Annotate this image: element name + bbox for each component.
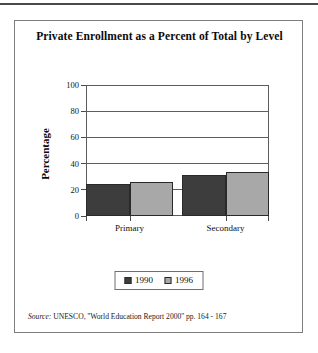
- y-tick-60: [81, 137, 86, 138]
- page-top-rule: [0, 3, 318, 5]
- x-tick-edge-right: [268, 216, 269, 221]
- bar-primary-1996: [130, 182, 174, 216]
- y-axis-title-label: Percentage: [39, 128, 51, 180]
- y-tick-label-80: 80: [57, 106, 79, 116]
- y-tick-label-20: 20: [57, 185, 79, 195]
- bar-primary-1990: [86, 184, 130, 216]
- x-tick-label-secondary: Secondary: [207, 223, 245, 233]
- gridline-40: [86, 163, 269, 164]
- y-tick-label-40: 40: [57, 159, 79, 169]
- source-note-lead: Source:: [28, 312, 51, 321]
- bar-secondary-1996: [226, 172, 270, 216]
- y-tick-label-0: 0: [57, 211, 79, 221]
- legend-label-1990: 1990: [135, 276, 153, 285]
- y-tick-label-60: 60: [57, 132, 79, 142]
- gridline-60: [86, 137, 269, 138]
- legend-swatch-1990: [124, 277, 131, 284]
- plot-area: 020406080100 PrimarySecondary: [86, 85, 269, 216]
- legend-entry-1996: 1996: [164, 276, 193, 285]
- x-tick-edge-left: [86, 216, 87, 221]
- legend-label-1996: 1996: [175, 276, 193, 285]
- source-note: Source: UNESCO, ''World Education Report…: [28, 312, 226, 321]
- y-tick-100: [81, 85, 86, 86]
- gridline-100: [86, 85, 269, 86]
- y-axis-title: Percentage: [37, 99, 53, 209]
- chart-legend: 19901996: [114, 271, 203, 290]
- y-tick-40: [81, 163, 86, 164]
- x-tick-label-primary: Primary: [115, 223, 144, 233]
- x-tick-primary: [130, 216, 131, 221]
- source-note-text: UNESCO, ''World Education Report 2000'' …: [53, 312, 226, 321]
- y-tick-80: [81, 111, 86, 112]
- legend-entry-1990: 1990: [124, 276, 153, 285]
- gridline-80: [86, 111, 269, 112]
- chart-title: Private Enrollment as a Percent of Total…: [29, 29, 290, 44]
- legend-swatch-1996: [164, 277, 171, 284]
- figure-card: Private Enrollment as a Percent of Total…: [14, 20, 303, 333]
- x-tick-secondary: [226, 216, 227, 221]
- y-tick-label-100: 100: [57, 80, 79, 90]
- bar-secondary-1990: [182, 175, 226, 216]
